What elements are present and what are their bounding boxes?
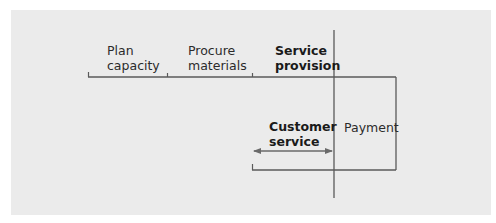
stage-plan-capacity: Plan capacity: [107, 43, 160, 73]
stage-procure-materials: Procure materials: [188, 43, 247, 73]
stage-customer-service: Customer service: [269, 119, 337, 149]
diagram-lines: [0, 0, 496, 223]
stage-service-provision: Service provision: [275, 43, 340, 73]
stage-payment: Payment: [344, 120, 399, 135]
